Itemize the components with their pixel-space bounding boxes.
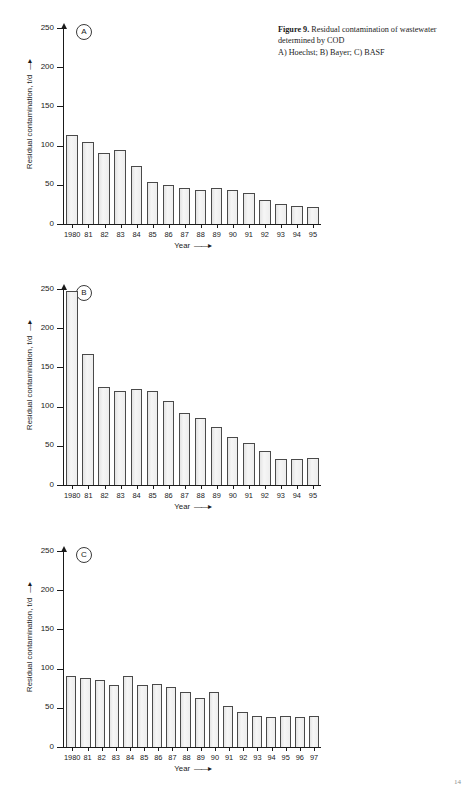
x-axis-arrow-icon: ——▸ <box>194 241 211 250</box>
bar-slot <box>209 28 225 224</box>
y-tick: 0 <box>57 747 64 748</box>
y-tick: 250 <box>57 28 64 29</box>
x-tick-label: 83 <box>113 491 129 500</box>
x-tick-slot: 95 <box>279 748 293 762</box>
x-tick-label: 93 <box>273 491 289 500</box>
bar <box>237 712 247 747</box>
chart-panel-b: Residual contamination, t/d—▸05010015020… <box>0 283 330 515</box>
x-tick-group: 1980818283848586878889909192939495 <box>64 225 321 239</box>
bar <box>82 142 94 224</box>
x-tick-slot: 82 <box>96 486 112 500</box>
bar-slot <box>121 551 135 747</box>
bar <box>266 717 276 747</box>
y-tick-label: 50 <box>45 702 54 711</box>
bar-slot <box>209 289 225 485</box>
y-tick: 0 <box>57 224 64 225</box>
y-tick: 200 <box>57 590 64 591</box>
bar <box>137 685 147 747</box>
x-tick-mark <box>297 486 298 489</box>
x-axis-label-text: Year <box>174 764 190 773</box>
bar-slot <box>278 551 292 747</box>
x-tick-group: 19808182838485868788899091929394959697 <box>64 748 321 762</box>
x-tick-slot: 84 <box>129 486 145 500</box>
x-tick-mark <box>130 748 131 751</box>
bar-slot <box>112 28 128 224</box>
bar-slot <box>128 289 144 485</box>
x-tick-label: 90 <box>225 230 241 239</box>
x-tick-mark <box>172 748 173 751</box>
x-tick-mark <box>229 748 230 751</box>
y-tick-label: 250 <box>41 23 54 32</box>
bar <box>180 692 190 747</box>
x-tick-slot: 87 <box>165 748 179 762</box>
y-axis-arrow-icon: —▸ <box>25 60 34 70</box>
x-tick-mark <box>137 486 138 489</box>
x-tick-label: 84 <box>129 491 145 500</box>
bar-series <box>64 551 321 747</box>
y-tick: 150 <box>57 629 64 630</box>
x-tick-label: 92 <box>257 491 273 500</box>
x-tick-slot: 92 <box>236 748 250 762</box>
x-tick-slot: 94 <box>289 486 305 500</box>
bar <box>131 166 143 224</box>
y-axis-label: Residual contamination, t/d—▸ <box>25 548 34 728</box>
bar-slot <box>164 551 178 747</box>
x-tick-slot: 1980 <box>64 748 80 762</box>
y-tick: 100 <box>57 146 64 147</box>
bar <box>275 204 287 224</box>
bar <box>152 684 162 748</box>
x-tick-label: 1980 <box>64 230 80 239</box>
x-tick-label: 88 <box>193 230 209 239</box>
x-tick-slot: 83 <box>113 225 129 239</box>
y-tick-label: 100 <box>41 401 54 410</box>
y-tick: 50 <box>57 446 64 447</box>
x-tick-slot: 84 <box>129 225 145 239</box>
x-tick-slot: 93 <box>273 225 289 239</box>
x-tick-slot: 87 <box>177 225 193 239</box>
x-tick-slot: 83 <box>113 486 129 500</box>
bar-slot <box>176 289 192 485</box>
x-tick-mark <box>72 748 73 751</box>
bar-slot <box>193 551 207 747</box>
bar-slot <box>307 551 321 747</box>
x-tick-label: 1980 <box>64 753 80 762</box>
x-tick-slot: 1980 <box>64 225 80 239</box>
bar-slot <box>107 551 121 747</box>
bar-slot <box>293 551 307 747</box>
x-tick-label: 92 <box>257 230 273 239</box>
bar <box>163 401 175 485</box>
x-tick-slot: 85 <box>137 748 151 762</box>
x-tick-slot: 86 <box>161 225 177 239</box>
x-tick-slot: 81 <box>80 225 96 239</box>
bar <box>259 200 271 224</box>
x-tick-mark <box>201 225 202 228</box>
x-tick-group: 1980818283848586878889909192939495 <box>64 486 321 500</box>
bar-slot <box>144 289 160 485</box>
x-tick-label: 93 <box>273 230 289 239</box>
x-tick-label: 95 <box>305 230 321 239</box>
x-tick-mark <box>314 748 315 751</box>
y-tick: 200 <box>57 328 64 329</box>
x-tick-label: 95 <box>279 753 293 762</box>
x-tick-mark <box>169 225 170 228</box>
x-tick-mark <box>257 748 258 751</box>
x-tick-mark <box>153 486 154 489</box>
x-tick-label: 89 <box>194 753 208 762</box>
bar <box>114 391 126 485</box>
x-tick-mark <box>281 225 282 228</box>
bar <box>211 188 223 224</box>
x-tick-mark <box>286 748 287 751</box>
x-tick-slot: 95 <box>305 486 321 500</box>
x-tick-mark <box>105 225 106 228</box>
y-tick: 50 <box>57 185 64 186</box>
bar-slot <box>225 289 241 485</box>
x-tick-mark <box>158 748 159 751</box>
x-tick-mark <box>249 486 250 489</box>
x-tick-label: 94 <box>289 230 305 239</box>
y-axis-label: Residual contamination, t/d—▸ <box>25 25 34 205</box>
bar <box>291 459 303 485</box>
x-axis-label-text: Year <box>174 502 190 511</box>
x-tick-slot: 85 <box>145 225 161 239</box>
bar-slot <box>93 551 107 747</box>
x-axis-label-text: Year <box>174 241 190 250</box>
